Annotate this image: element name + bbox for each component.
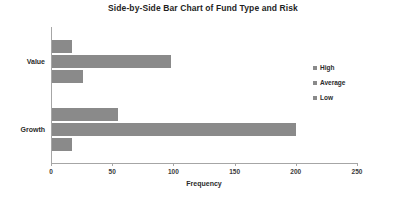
bar-value-low (52, 70, 83, 83)
bar-value-high (52, 40, 72, 53)
bar-chart: Side-by-Side Bar Chart of Fund Type and … (0, 0, 406, 207)
bar-growth-average (52, 123, 296, 136)
bar-growth-low (52, 138, 72, 151)
y-axis-label-value: Value (0, 58, 45, 65)
legend-swatch-icon (313, 96, 317, 100)
legend-item-low[interactable]: Low (313, 92, 345, 104)
bar-value-average (52, 55, 171, 68)
bar-growth-high (52, 108, 118, 121)
legend-item-high[interactable]: High (313, 62, 345, 74)
legend-item-average[interactable]: Average (313, 77, 345, 89)
legend-label: Low (320, 95, 333, 102)
legend-swatch-icon (313, 66, 317, 70)
legend-label: High (320, 65, 334, 72)
y-axis-label-growth: Growth (0, 126, 45, 133)
plot-area (52, 27, 357, 163)
legend-swatch-icon (313, 81, 317, 85)
legend-label: Average (320, 80, 345, 87)
chart-legend: HighAverageLow (313, 62, 345, 107)
